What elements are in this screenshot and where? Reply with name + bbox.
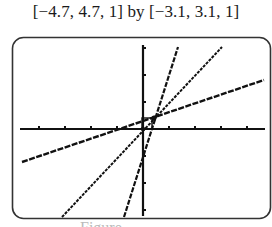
origin-point [141,127,145,131]
figure-caption: Figure [80,221,200,227]
intersection-point [152,116,157,121]
calculator-graph-screen [0,0,272,227]
